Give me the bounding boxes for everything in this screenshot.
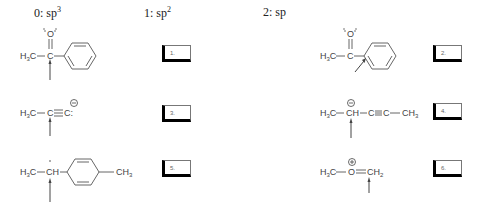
oxygen-atom: O [47,29,54,39]
carbonyl-carbon: C [47,51,54,61]
svg-text:H3C: H3C [20,167,37,178]
svg-text:CH3: CH3 [116,167,133,178]
answer-box-4[interactable]: 4. [433,103,462,120]
molecule-4-carbanion: H3C CH C C CH3 [320,100,419,139]
svg-text:C: C [368,108,375,118]
answer-box-6[interactable]: 6. [433,160,462,177]
svg-text:H3C: H3C [320,108,337,119]
svg-text:C:: C: [64,108,73,118]
svg-text:O: O [348,167,355,177]
svg-text:H3C: H3C [320,167,337,178]
molecule-1-acetophenone: H3C C O [20,28,96,80]
answer-box-2[interactable]: 2. [433,45,462,62]
answer-box-1[interactable]: 1. [162,45,191,62]
svg-text:CH: CH [46,167,59,177]
molecule-drawings: H3C C O H3C C O H3C C [0,0,480,210]
svg-text:H3C: H3C [20,108,37,119]
answer-box-5[interactable]: 5. [162,160,191,177]
answer-box-3[interactable]: 3. [162,105,191,122]
molecule-6-oxonium: H3C O CH2 [320,159,384,194]
arrow-icon [355,61,364,72]
carbonyl-carbon: C [347,51,354,61]
oxygen-atom: O [347,29,354,39]
svg-text:H3C: H3C [20,51,37,62]
molecule-3-propynide: H3C C C: [20,100,78,137]
molecule-2-acetophenone: H3C C O [320,28,396,72]
svg-text:C: C [383,108,390,118]
svg-text:CH: CH [346,108,359,118]
radical-dot-icon [49,160,51,162]
molecule-5-radical: H3C CH CH3 [20,159,133,202]
svg-text:H3C: H3C [320,51,337,62]
svg-text:CH2: CH2 [367,167,384,178]
svg-text:CH3: CH3 [402,108,419,119]
svg-text:C: C [47,108,54,118]
